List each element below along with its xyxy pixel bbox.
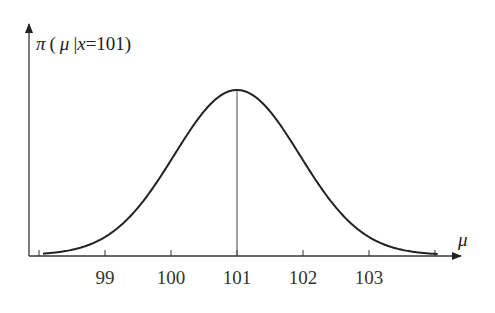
density-curve [43, 90, 438, 254]
x-tick-label: 101 [223, 267, 252, 288]
x-tick-label: 100 [157, 267, 186, 288]
y-axis-label: π(μ|x=101) [36, 33, 131, 55]
x-tick-label: 102 [289, 267, 318, 288]
x-tick-label: 99 [96, 267, 115, 288]
x-axis-tick-labels: 99100101102103 [96, 267, 384, 288]
posterior-density-chart: 99100101102103 π(μ|x=101) μ [0, 0, 495, 313]
x-tick-label: 103 [355, 267, 384, 288]
x-axis-label: μ [457, 229, 468, 250]
